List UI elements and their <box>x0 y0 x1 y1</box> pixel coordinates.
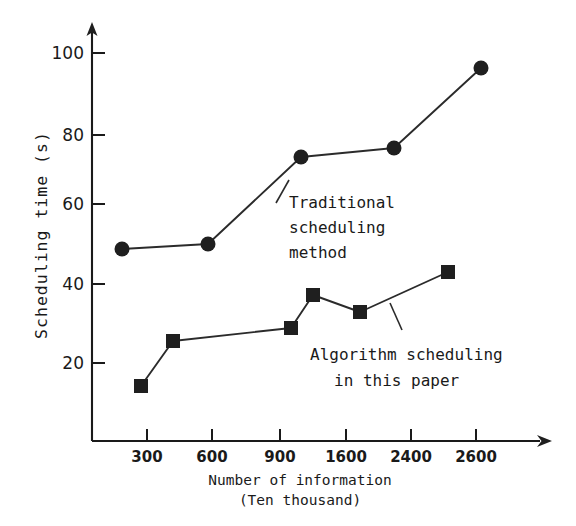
y-ticklabel-60: 60 <box>62 194 84 214</box>
series-traditional-point-1 <box>115 242 130 257</box>
series-traditional-point-2 <box>201 237 216 252</box>
x-ticklabel-2400: 2400 <box>390 448 432 466</box>
x-axis-ticklabels: 300 600 900 1600 2400 2600 <box>131 448 497 466</box>
series-algorithm-point-2 <box>166 334 180 348</box>
y-axis-ticks <box>92 53 105 363</box>
series-algorithm-point-5 <box>353 305 367 319</box>
x-ticklabel-2600: 2600 <box>455 448 497 466</box>
series-algorithm-point-6 <box>441 265 455 279</box>
algorithm-annotation-leader-line <box>390 303 402 330</box>
y-ticklabel-80: 80 <box>62 125 84 145</box>
algorithm-annotation-line-2: in this paper <box>334 371 460 390</box>
chart-figure: 100 80 60 40 20 300 600 900 <box>0 0 576 526</box>
traditional-annotation-line-3: method <box>289 243 347 262</box>
y-ticklabel-20: 20 <box>62 353 84 373</box>
series-traditional-point-4 <box>387 141 402 156</box>
algorithm-annotation: Algorithm scheduling in this paper <box>310 345 503 390</box>
x-axis-subtitle: (Ten thousand) <box>239 492 361 508</box>
x-axis-title: Number of information <box>208 472 391 488</box>
x-axis-ticks <box>147 429 476 441</box>
x-axis: 300 600 900 1600 2400 2600 <box>92 429 552 466</box>
x-ticklabel-600: 600 <box>196 448 227 466</box>
y-ticklabel-40: 40 <box>62 274 84 294</box>
traditional-annotation: Traditional scheduling method <box>289 193 395 262</box>
series-algorithm-point-4 <box>306 288 320 302</box>
chart-canvas: 100 80 60 40 20 300 600 900 <box>0 0 576 526</box>
y-axis: 100 80 60 40 20 <box>52 22 105 441</box>
y-ticklabel-100: 100 <box>52 43 84 63</box>
algorithm-annotation-line-1: Algorithm scheduling <box>310 345 503 364</box>
x-ticklabel-900: 900 <box>264 448 295 466</box>
traditional-annotation-line-1: Traditional <box>289 193 395 212</box>
series-traditional-point-3 <box>294 150 309 165</box>
traditional-annotation-line-2: scheduling <box>289 218 385 237</box>
series-algorithm-point-3 <box>284 321 298 335</box>
x-ticklabel-300: 300 <box>131 448 162 466</box>
traditional-annotation-leader-line <box>276 180 289 203</box>
x-ticklabel-1600: 1600 <box>325 448 367 466</box>
y-axis-ticklabels: 100 80 60 40 20 <box>52 43 84 373</box>
series-algorithm-point-1 <box>134 379 148 393</box>
y-axis-title: Scheduling time (s) <box>32 131 51 339</box>
series-traditional-point-5 <box>474 61 489 76</box>
